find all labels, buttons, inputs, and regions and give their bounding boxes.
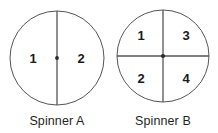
spinner-a-caption: Spinner A (0, 114, 114, 128)
spinner-b-hub-dot (161, 54, 165, 58)
spinner-b-sector-3-label: 3 (182, 28, 189, 43)
spinner-b-sector-2-label: 2 (137, 71, 144, 86)
spinner-b-sector-4-label: 4 (182, 71, 190, 86)
spinner-b-sector-1-label: 1 (137, 28, 144, 43)
spinner-figure: 1 2 1 3 2 4 Spinner A Spinner B (0, 0, 218, 133)
spinner-b-caption: Spinner B (108, 114, 218, 128)
